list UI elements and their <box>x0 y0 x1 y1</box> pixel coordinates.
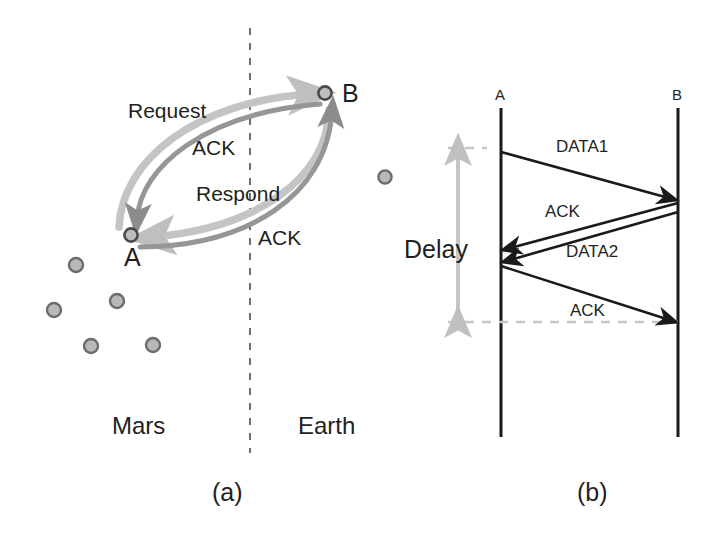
data1-label: DATA1 <box>556 137 608 157</box>
data1-arrow <box>501 152 676 200</box>
delay-label: Delay <box>404 235 468 264</box>
star <box>110 294 124 308</box>
earth-label: Earth <box>298 412 355 440</box>
data2-label: DATA2 <box>566 242 618 262</box>
respond-arrow <box>152 110 329 237</box>
ack-label-2: ACK <box>258 226 301 250</box>
request-label: Request <box>128 99 206 123</box>
star <box>146 338 160 352</box>
star <box>69 258 83 272</box>
node-b-label: B <box>342 79 359 108</box>
caption-b: (b) <box>577 478 608 507</box>
caption-a: (a) <box>212 478 243 507</box>
panel-b <box>448 108 682 437</box>
seq-ack-label-1: ACK <box>545 202 580 222</box>
node-a-dot <box>124 228 137 241</box>
respond-label: Respond <box>196 182 280 206</box>
lifeline-b-label: B <box>672 86 682 103</box>
star <box>47 303 61 317</box>
mars-label: Mars <box>112 412 165 440</box>
lifeline-a-label: A <box>495 86 505 103</box>
star <box>84 339 98 353</box>
star <box>378 170 391 183</box>
figure-root: A B Request ACK Respond ACK Mars Earth (… <box>0 0 712 536</box>
node-b-dot <box>318 86 331 99</box>
panel-a <box>47 28 392 453</box>
node-a-label: A <box>124 243 141 272</box>
seq-ack-label-2: ACK <box>570 301 605 321</box>
ack-label-1: ACK <box>192 136 235 160</box>
